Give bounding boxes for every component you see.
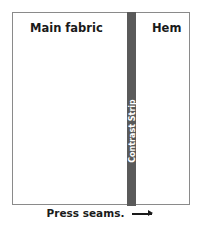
arrow-right-icon: [132, 213, 152, 215]
fabric-panel: Main fabric Contrast Strip Hem: [12, 12, 190, 205]
main-fabric-label: Main fabric: [30, 21, 103, 35]
caption: Press seams.: [0, 207, 199, 219]
caption-text: Press seams.: [47, 207, 125, 219]
contrast-strip: Contrast Strip: [127, 12, 136, 206]
contrast-strip-label: Contrast Strip: [127, 99, 136, 163]
hem-label: Hem: [152, 21, 181, 35]
